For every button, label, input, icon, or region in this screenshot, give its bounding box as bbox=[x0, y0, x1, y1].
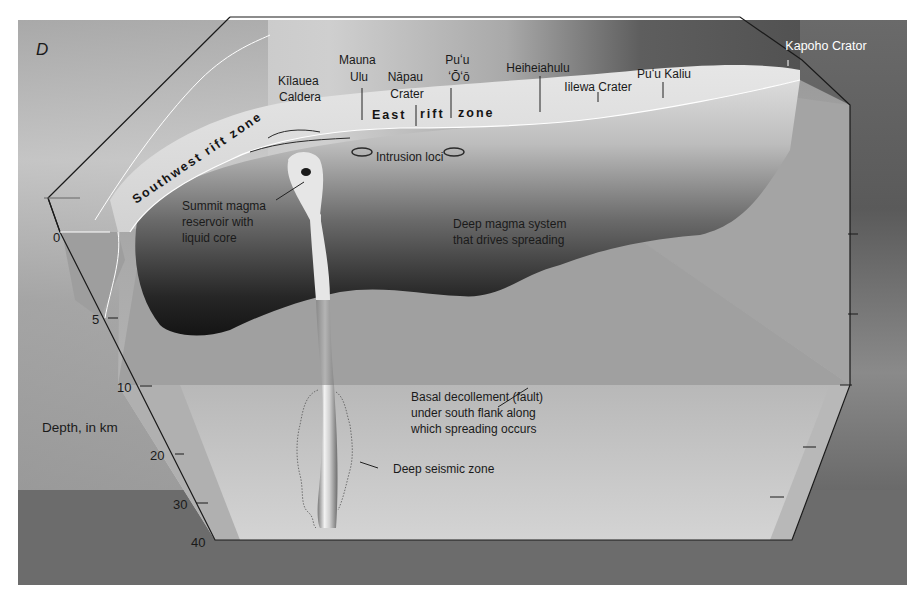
label-intrusion-loci: Intrusion loci bbox=[376, 150, 443, 164]
tick-5: 5 bbox=[92, 312, 99, 327]
label-basal-decollement: Basal decollement (fault) under south fl… bbox=[410, 390, 546, 436]
label-east-rift-word-2: rift bbox=[420, 107, 445, 121]
label-deep-seismic-zone: Deep seismic zone bbox=[393, 462, 495, 476]
tick-30: 30 bbox=[173, 497, 187, 512]
label-east-rift-word-3: zone bbox=[458, 106, 494, 120]
tick-0: 0 bbox=[53, 230, 60, 245]
tick-40: 40 bbox=[191, 535, 205, 550]
tick-20: 20 bbox=[150, 448, 164, 463]
label-heiheiahulu: Heiheiahulu bbox=[506, 61, 569, 75]
panel-letter: D bbox=[36, 40, 48, 59]
kilauea-cross-section-diagram: D Kīlauea Caldera Mauna Ulu Nāpau Crater… bbox=[0, 0, 907, 592]
label-kapoho-crater: Kapoho Crator bbox=[785, 39, 866, 53]
label-east-rift-word-1: East bbox=[372, 108, 406, 122]
depth-axis-label: Depth, in km bbox=[42, 420, 118, 435]
liquid-core bbox=[301, 168, 311, 176]
label-puu-kaliu: Puʻu Kaliu bbox=[637, 67, 691, 81]
label-iilewa-crater: Iilewa Crater bbox=[564, 80, 631, 94]
tick-10: 10 bbox=[117, 380, 131, 395]
